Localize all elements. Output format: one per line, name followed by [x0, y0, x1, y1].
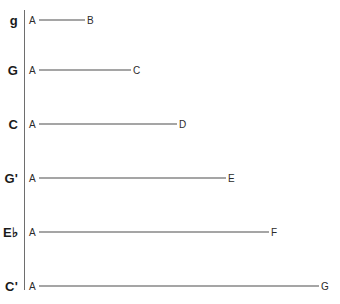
interval-line [39, 232, 269, 233]
interval-end-label: C [133, 65, 140, 76]
interval-start-label: A [29, 65, 36, 76]
interval-end-label: E [228, 173, 235, 184]
interval-diagram: gABGACCADG'AEE♭AFC'AG [0, 0, 340, 304]
row-axis-label: E♭ [3, 225, 18, 240]
row-axis-label: g [10, 13, 18, 28]
fundamental-axis-line [24, 10, 25, 290]
interval-start-label: A [29, 173, 36, 184]
row-axis-label: C [8, 117, 18, 132]
interval-end-label: G [321, 281, 329, 292]
interval-line [39, 178, 226, 179]
interval-line [39, 70, 131, 71]
interval-start-label: A [29, 227, 36, 238]
interval-start-label: A [29, 15, 36, 26]
interval-end-label: F [271, 227, 277, 238]
row-axis-label: G [8, 63, 18, 78]
interval-start-label: A [29, 281, 36, 292]
interval-line [39, 286, 319, 287]
row-axis-label: C' [5, 279, 18, 294]
row-axis-label: G' [4, 171, 18, 186]
interval-start-label: A [29, 119, 36, 130]
interval-end-label: B [87, 15, 94, 26]
interval-end-label: D [179, 119, 186, 130]
interval-line [39, 124, 177, 125]
interval-line [39, 20, 85, 21]
